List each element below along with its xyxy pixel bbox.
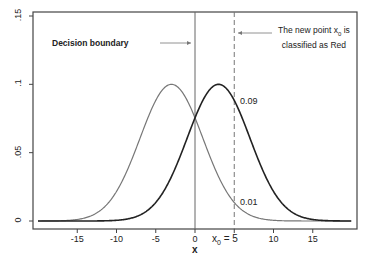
decision-boundary-label: Decision boundary [52, 38, 129, 48]
x-tick-label: -5 [141, 234, 171, 244]
x-tick-label: -10 [102, 234, 132, 244]
x0-tick-label: x0 = 5 [212, 233, 238, 246]
arrow-head-icon [238, 31, 242, 35]
arrow-head-icon [187, 41, 191, 45]
y-tick-label: .15 [13, 5, 23, 25]
new-point-text-end: is [341, 25, 350, 35]
y-tick-label: 0 [13, 210, 23, 230]
new-point-text: The new point x [278, 25, 338, 35]
chart: Decision boundary The new point x0 is cl… [0, 0, 375, 267]
x-tick-label: 0 [180, 234, 210, 244]
x-tick-label: -15 [62, 234, 92, 244]
y-tick-label: .05 [13, 142, 23, 162]
y-tick-label: .1 [13, 73, 23, 93]
x-tick-label: 10 [259, 234, 289, 244]
new-point-annotation: The new point x0 is classified as Red [278, 25, 350, 51]
x-tick-label: 15 [298, 234, 328, 244]
x0-eq: = 5 [221, 233, 238, 244]
x-axis-title: x [192, 244, 198, 255]
new-point-text-2: classified as Red [282, 40, 346, 50]
value-low-label: 0.01 [240, 197, 258, 207]
value-high-label: 0.09 [240, 96, 258, 106]
